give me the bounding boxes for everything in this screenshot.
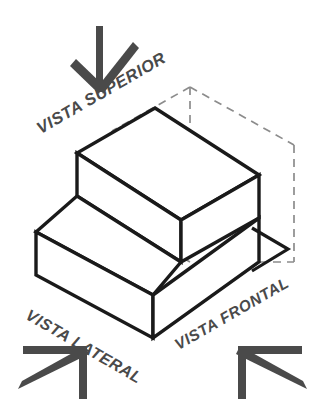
solid-lines-group: [36, 108, 259, 338]
arrow-frontal-head-top: [239, 346, 302, 354]
hidden-edge-rear-top-right: [190, 87, 294, 145]
drawing-canvas: VISTA SUPERIOR VISTA LATERAL VISTA FRONT…: [0, 0, 325, 408]
arrow-frontal-head-side: [238, 346, 246, 399]
arrow-frontal: [236, 346, 307, 399]
